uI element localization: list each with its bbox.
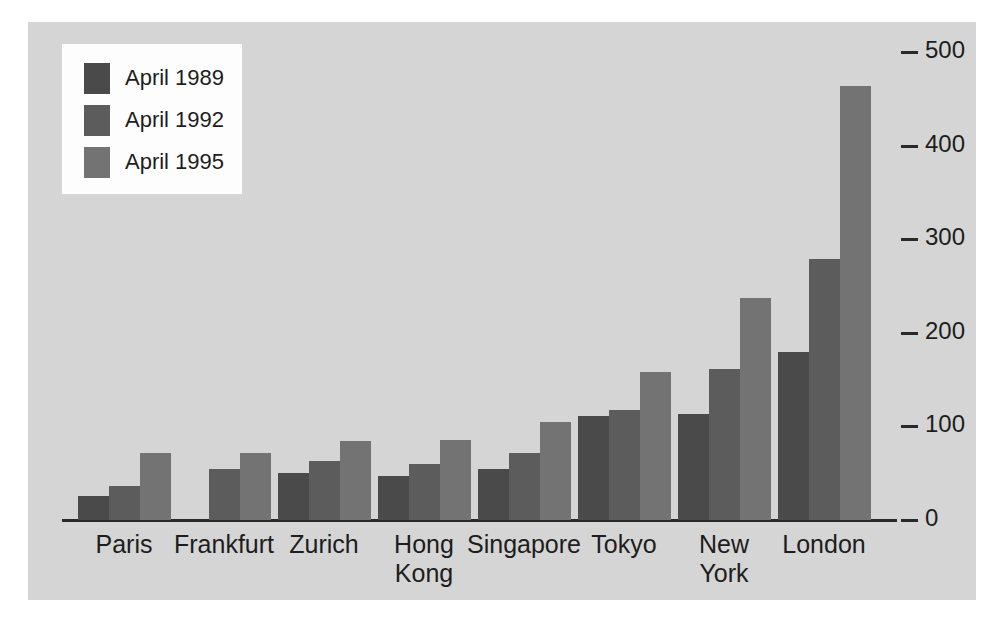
y-axis-tick (901, 238, 918, 241)
legend-swatch (84, 147, 110, 178)
y-axis-tick (901, 519, 918, 522)
y-axis-tick-label: 500 (925, 38, 965, 62)
plot-area: 0100200300400500 ParisFrankfurtZurichHon… (0, 0, 1002, 630)
bar (578, 416, 609, 520)
y-axis-tick (901, 332, 918, 335)
bar (809, 259, 840, 520)
category-label: London (744, 530, 904, 559)
y-axis-tick-label: 300 (925, 225, 965, 249)
y-axis-tick (901, 145, 918, 148)
bar (78, 496, 109, 520)
legend-label: April 1995 (125, 149, 224, 175)
bar (209, 469, 240, 520)
legend-label: April 1989 (125, 65, 224, 91)
bar-group (178, 519, 271, 520)
bar (740, 298, 771, 520)
bar-group (378, 519, 471, 520)
bar (378, 476, 409, 520)
bar (109, 486, 140, 520)
bar (640, 372, 671, 520)
legend: April 1989April 1992April 1995 (62, 44, 242, 194)
y-axis-tick-label: 200 (925, 319, 965, 343)
bar (609, 410, 640, 520)
y-axis-tick-label: 100 (925, 412, 965, 436)
bar (309, 461, 340, 520)
bar-group (578, 519, 671, 520)
bar-group (678, 519, 771, 520)
bar (140, 453, 171, 520)
bar-group (78, 519, 171, 520)
bar (678, 414, 709, 520)
y-axis-tick (901, 51, 918, 54)
bar-group (278, 519, 371, 520)
bar (540, 422, 571, 520)
bar (409, 464, 440, 520)
y-axis-tick-label: 400 (925, 132, 965, 156)
bar (240, 453, 271, 520)
bar (709, 369, 740, 520)
bar (778, 352, 809, 520)
bar (840, 86, 871, 520)
bar (440, 440, 471, 520)
bar-group (778, 519, 871, 520)
bar (478, 469, 509, 520)
bar (340, 441, 371, 520)
y-axis-tick (901, 425, 918, 428)
bar (509, 453, 540, 520)
legend-swatch (84, 63, 110, 94)
y-axis-tick-label: 0 (925, 506, 938, 530)
legend-swatch (84, 105, 110, 136)
legend-label: April 1992 (125, 107, 224, 133)
bar (278, 473, 309, 520)
bar-group (478, 519, 571, 520)
figure: 0100200300400500 ParisFrankfurtZurichHon… (0, 0, 1002, 630)
